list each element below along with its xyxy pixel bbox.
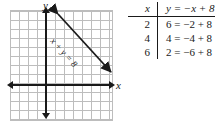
cell-y: 4 = −4 + 8 <box>158 31 215 45</box>
table-row: 2 6 = −2 + 8 <box>128 17 215 32</box>
table-header-y: y = −x + 8 <box>158 2 215 17</box>
figure-container: x y x + y = 8 x y = −x + 8 <box>0 0 217 128</box>
cell-y: 2 = −6 + 8 <box>158 45 215 59</box>
table-row: 6 2 = −6 + 8 <box>128 45 215 59</box>
cell-y-work: = −6 + 8 <box>174 46 212 58</box>
value-table: x y = −x + 8 2 6 = −2 + 8 4 4 = −4 + 8 6… <box>128 2 215 59</box>
cell-x: 4 <box>128 31 158 45</box>
value-table-panel: x y = −x + 8 2 6 = −2 + 8 4 4 = −4 + 8 6… <box>126 2 217 68</box>
table-row: 4 4 = −4 + 8 <box>128 31 215 45</box>
table-header-row: x y = −x + 8 <box>128 2 215 17</box>
coordinate-graph: x y x + y = 8 <box>0 0 126 128</box>
cell-x: 2 <box>128 17 158 32</box>
cell-y-work: = −4 + 8 <box>174 32 212 44</box>
cell-y-work: = −2 + 8 <box>174 18 212 30</box>
cell-x: 6 <box>128 45 158 59</box>
table-header-x: x <box>128 2 158 17</box>
plotted-line <box>0 0 126 128</box>
cell-y: 6 = −2 + 8 <box>158 17 215 32</box>
